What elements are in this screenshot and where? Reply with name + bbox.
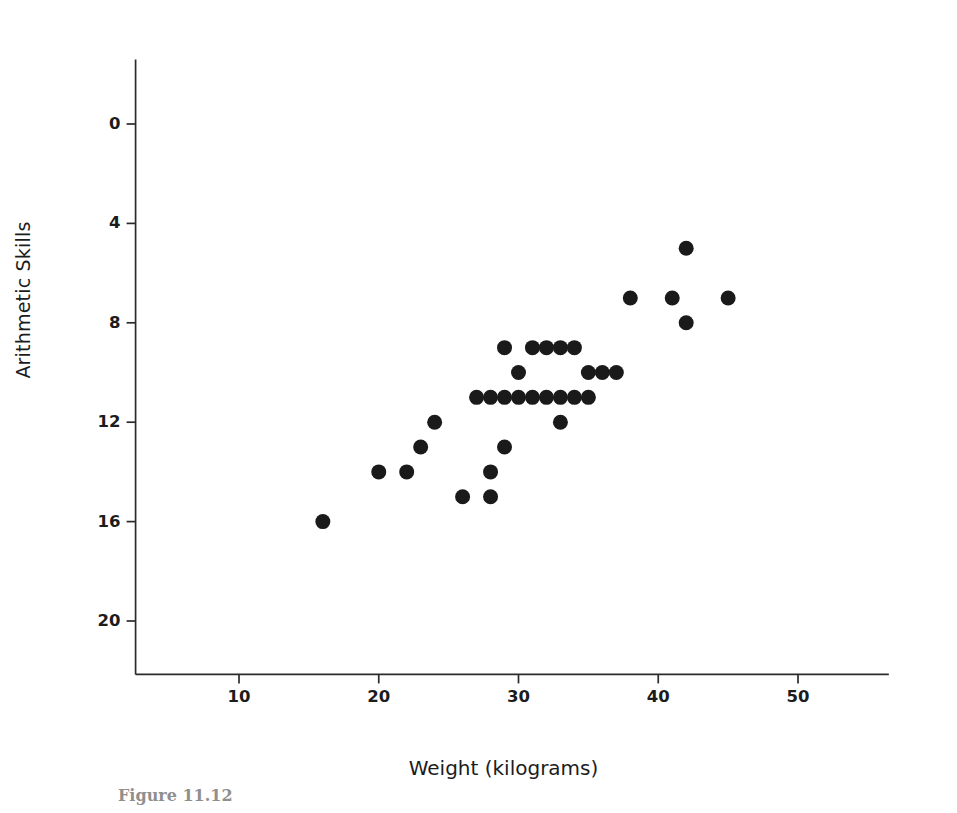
data-point <box>483 489 498 504</box>
x-tick-label: 30 <box>496 687 542 706</box>
data-point <box>511 390 526 405</box>
y-tick-label: 4 <box>77 213 121 232</box>
data-point <box>595 365 610 380</box>
x-tick-label: 10 <box>216 687 262 706</box>
y-tick-label: 16 <box>77 512 121 531</box>
axis-spines <box>136 59 889 674</box>
x-tick-label: 40 <box>635 687 681 706</box>
y-tick-label: 20 <box>77 611 121 630</box>
y-tick-label: 8 <box>77 313 121 332</box>
data-point <box>483 390 498 405</box>
data-point <box>399 464 414 479</box>
data-point <box>721 290 736 305</box>
data-point <box>581 390 596 405</box>
y-axis-title: Arithmetic Skills <box>0 40 22 300</box>
data-point <box>609 365 624 380</box>
data-point <box>567 390 582 405</box>
data-point <box>679 241 694 256</box>
y-axis-title-text: Arithmetic Skills <box>12 170 34 430</box>
data-point <box>567 340 582 355</box>
data-point-group <box>315 241 735 529</box>
data-point <box>665 290 680 305</box>
data-point <box>623 290 638 305</box>
data-point <box>315 514 330 529</box>
data-point <box>553 340 568 355</box>
figure-caption-text: Figure 11.12 <box>118 786 233 805</box>
data-point <box>427 415 442 430</box>
data-point <box>525 340 540 355</box>
scatter-plot-figure: Arithmetic Skills Weight (kilograms) 201… <box>0 0 957 813</box>
data-point <box>525 390 540 405</box>
data-point <box>497 440 512 455</box>
data-point <box>511 365 526 380</box>
x-axis-title-text: Weight (kilograms) <box>409 756 599 780</box>
figure-caption: Figure 11.12 <box>118 786 233 805</box>
data-point <box>539 390 554 405</box>
data-point <box>553 415 568 430</box>
data-point <box>455 489 470 504</box>
data-point <box>581 365 596 380</box>
data-point <box>483 464 498 479</box>
x-tick-label: 20 <box>356 687 402 706</box>
x-axis-title: Weight (kilograms) <box>0 756 957 780</box>
y-tick-label: 12 <box>77 412 121 431</box>
data-point <box>469 390 484 405</box>
data-point <box>371 464 386 479</box>
x-tick-label: 50 <box>775 687 821 706</box>
data-point <box>413 440 428 455</box>
data-point <box>539 340 554 355</box>
axis-ticks <box>127 124 798 683</box>
data-point <box>497 340 512 355</box>
data-point <box>679 315 694 330</box>
y-tick-label: 0 <box>77 114 121 133</box>
data-point <box>553 390 568 405</box>
data-point <box>497 390 512 405</box>
